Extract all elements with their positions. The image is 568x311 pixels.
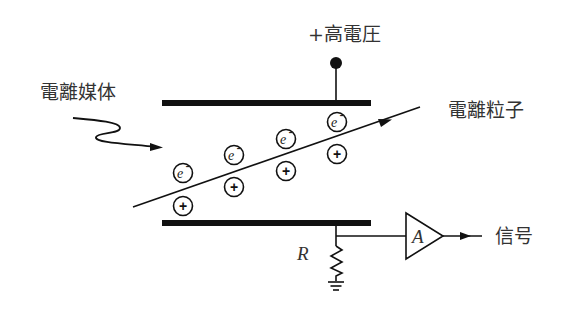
output-arrowhead-icon bbox=[460, 232, 471, 240]
svg-text:-: - bbox=[186, 158, 191, 173]
positive-ion-3: + bbox=[277, 162, 296, 181]
positive-ion-group: + + + + bbox=[174, 145, 347, 216]
particle-track-arrowhead-icon bbox=[378, 119, 392, 127]
high-voltage-terminal bbox=[330, 57, 342, 101]
svg-text:-: - bbox=[237, 140, 242, 155]
electron-group: e - e - e - e - bbox=[174, 107, 347, 183]
positive-ion-4: + bbox=[328, 145, 347, 164]
svg-text:-: - bbox=[289, 124, 294, 139]
amplifier-label: A bbox=[410, 226, 424, 247]
resistor-label: R bbox=[297, 244, 309, 263]
particle-track-line bbox=[133, 107, 420, 207]
positive-ion-1: + bbox=[174, 197, 193, 216]
electron-4: e - bbox=[328, 107, 347, 132]
svg-text:e: e bbox=[331, 115, 337, 130]
svg-text:e: e bbox=[280, 132, 286, 147]
svg-text:e: e bbox=[177, 166, 183, 181]
svg-text:-: - bbox=[340, 107, 345, 122]
top-electrode-plate bbox=[162, 100, 371, 106]
svg-text:+: + bbox=[179, 198, 187, 214]
resistor-icon bbox=[331, 246, 342, 281]
electron-2: e - bbox=[225, 140, 244, 165]
signal-label: 信号 bbox=[495, 227, 533, 246]
ground-icon bbox=[328, 282, 344, 290]
electron-3: e - bbox=[277, 124, 296, 149]
svg-text:+: + bbox=[282, 163, 290, 179]
ionizing-medium-label: 電離媒体 bbox=[40, 83, 116, 102]
positive-ion-2: + bbox=[225, 178, 244, 197]
svg-text:+: + bbox=[230, 179, 238, 195]
ionized-particle-label: 電離粒子 bbox=[448, 101, 524, 120]
electron-1: e - bbox=[174, 158, 193, 183]
ionization-chamber-diagram: e - e - e - e - + bbox=[0, 0, 568, 311]
high-voltage-label: +高電圧 bbox=[308, 25, 381, 44]
bottom-electrode-plate bbox=[162, 220, 371, 226]
radiation-arrowhead-icon bbox=[150, 143, 163, 151]
diagram-canvas: e - e - e - e - + bbox=[0, 0, 568, 311]
svg-text:+: + bbox=[333, 146, 341, 162]
radiation-wavy-arrow bbox=[73, 118, 156, 147]
svg-text:e: e bbox=[228, 148, 234, 163]
